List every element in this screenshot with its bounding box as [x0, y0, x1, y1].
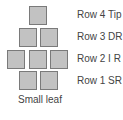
- row-2-square-2: [29, 50, 47, 69]
- diagram-caption: Small leaf: [18, 94, 62, 106]
- row-1-label: Row 1 SR: [77, 75, 122, 87]
- row-3-label: Row 3 DR: [77, 31, 123, 43]
- row-3-square-1: [19, 28, 37, 47]
- row-4-label: Row 4 Tip: [77, 9, 121, 21]
- row-2-label: Row 2 I R: [77, 53, 121, 65]
- row-2-square-1: [7, 50, 25, 69]
- row-4-square-1: [29, 6, 47, 25]
- row-1-square-2: [40, 71, 58, 90]
- row-1-square-1: [19, 71, 37, 90]
- row-3-square-2: [40, 28, 58, 47]
- row-2-square-3: [50, 50, 68, 69]
